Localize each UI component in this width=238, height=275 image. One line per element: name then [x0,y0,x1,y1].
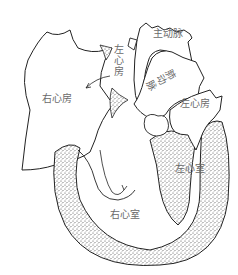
label-left-atrium-top: 左心房 [113,44,124,77]
flow-arrow-ventricle [100,150,124,195]
ventricle-cavity [78,150,135,200]
flow-arrow-ventricle-head [122,185,127,190]
septum [150,131,196,225]
heart-diagram [0,0,238,275]
label-aorta: 主动脉 [153,28,183,39]
valve-cluster [144,114,168,136]
label-left-ventricle: 左心室 [175,163,205,174]
label-right-atrium: 右心房 [42,93,72,104]
stipple-patch-mid [110,88,128,118]
label-right-ventricle: 右心室 [110,209,140,220]
label-left-atrium: 左心房 [180,98,210,109]
